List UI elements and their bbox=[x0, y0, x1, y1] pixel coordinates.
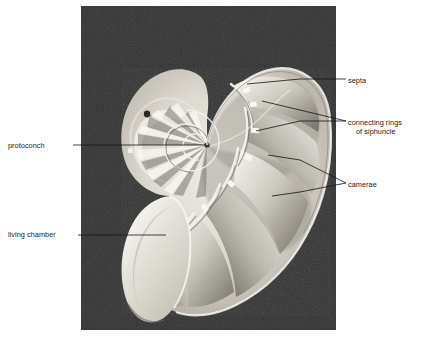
nautilus-shell-diagram bbox=[0, 0, 423, 345]
label-connecting-rings-line1: connecting rings bbox=[348, 118, 402, 127]
label-protoconch: protoconch bbox=[8, 141, 45, 150]
photograph bbox=[81, 6, 336, 330]
label-living-chamber-text: living chamber bbox=[8, 230, 56, 239]
label-septa-text: septa bbox=[348, 76, 366, 85]
label-living-chamber: living chamber bbox=[8, 230, 56, 239]
label-camerae: camerae bbox=[348, 180, 377, 189]
label-connecting-rings-line2: of siphuncle bbox=[348, 127, 402, 136]
label-septa: septa bbox=[348, 76, 366, 85]
label-camerae-text: camerae bbox=[348, 180, 377, 189]
label-connecting-rings-of-siphuncle: connecting rings of siphuncle bbox=[348, 118, 402, 136]
label-protoconch-text: protoconch bbox=[8, 141, 45, 150]
